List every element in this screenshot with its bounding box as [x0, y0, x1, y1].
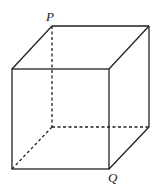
- label-p: P: [45, 9, 54, 24]
- edge: [12, 26, 52, 69]
- cube-diagram: P Q: [0, 0, 159, 186]
- label-q: Q: [108, 170, 118, 185]
- hidden-edge: [12, 127, 52, 169]
- front-face: [12, 69, 109, 169]
- edge: [109, 127, 149, 169]
- edge: [109, 26, 149, 69]
